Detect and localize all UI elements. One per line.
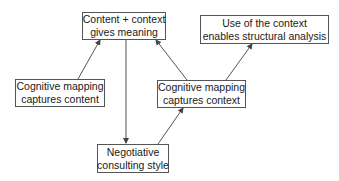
edge-cm-context-to-content-context [156, 40, 187, 80]
node-label-line: Cognitive mapping [17, 80, 104, 93]
node-label-line: enables structural analysis [203, 30, 327, 43]
node-label-line: Use of the context [222, 17, 307, 30]
node-label-line: Cognitive mapping [158, 81, 245, 94]
edge-cm-content-to-content-context [78, 40, 100, 79]
node-negotiative: Negotiative consulting style [97, 144, 169, 173]
node-use-of-context: Use of the context enables structural an… [200, 15, 329, 44]
node-label-line: consulting style [97, 159, 169, 172]
node-cm-content: Cognitive mapping captures content [15, 79, 105, 107]
node-label-line: Content + context [83, 13, 166, 26]
node-label-line: Negotiative [107, 146, 160, 159]
edge-cm-context-to-use-of-context [226, 44, 252, 80]
node-cm-context: Cognitive mapping captures context [157, 80, 246, 108]
node-label-line: captures content [21, 93, 99, 106]
node-content-context: Content + context gives meaning [82, 12, 166, 40]
edge-negotiative-to-cm-context [158, 108, 183, 144]
node-label-line: gives meaning [90, 26, 158, 39]
diagram-canvas: Content + context gives meaning Use of t… [0, 0, 339, 181]
node-label-line: captures context [163, 94, 240, 107]
